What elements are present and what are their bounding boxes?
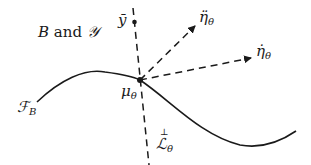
F-symbol: ℱ: [17, 98, 29, 116]
arrow-eta-dot: [140, 58, 251, 80]
point-y-bar: [132, 20, 137, 25]
label-y-bar: ȳ: [118, 13, 126, 28]
label-L: ℒθ: [156, 137, 173, 152]
F-subscript: B: [29, 106, 36, 117]
eta-ddot-subscript: θ: [208, 16, 214, 27]
label-eta-ddot: η̈θ: [199, 10, 214, 25]
label-F-B: ℱB: [17, 100, 36, 115]
L-symbol: ℒ: [156, 135, 167, 153]
title-B: B: [38, 23, 49, 41]
title-label: B and 𝒴: [38, 25, 99, 40]
arrow-eta-ddot: [140, 26, 195, 80]
eta-ddot-symbol: η̈: [199, 8, 208, 26]
title-Y: 𝒴: [87, 23, 99, 41]
title-and: and: [49, 23, 87, 41]
mu-symbol: μ: [121, 82, 131, 100]
L-subscript: θ: [167, 143, 173, 154]
eta-dot-subscript: θ: [265, 50, 271, 61]
label-eta-dot: η̇θ: [256, 44, 271, 59]
label-mu: μθ: [121, 84, 137, 99]
mu-subscript: θ: [131, 90, 137, 101]
eta-dot-symbol: η̇: [256, 42, 265, 60]
